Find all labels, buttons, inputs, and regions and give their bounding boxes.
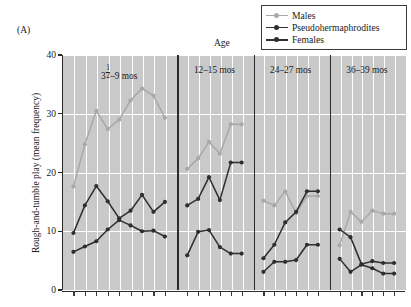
data-point	[240, 251, 244, 255]
series-line	[340, 229, 394, 264]
x-axis-tick-mark	[351, 291, 352, 296]
data-point	[151, 210, 155, 214]
series-layer	[0, 0, 411, 307]
data-point	[218, 198, 222, 202]
data-point	[196, 156, 200, 160]
data-point	[381, 261, 385, 265]
data-point	[163, 234, 167, 238]
x-axis-tick-mark	[318, 291, 319, 296]
y-axis-tick-label: 30	[34, 109, 56, 119]
data-point	[140, 86, 144, 90]
x-axis-tick-mark	[108, 291, 109, 296]
data-point	[94, 239, 98, 243]
series-line	[263, 191, 317, 213]
figure-root: (A) Age Rough-and-tumble play (mean freq…	[0, 0, 411, 307]
x-axis-tick-mark	[361, 291, 362, 296]
data-point	[370, 266, 374, 270]
y-axis-tick-label: 10	[34, 226, 56, 236]
x-axis-tick-mark	[372, 291, 373, 296]
data-point	[151, 93, 155, 97]
data-point	[129, 98, 133, 102]
x-axis-tick-mark	[187, 291, 188, 296]
x-axis-tick-mark	[73, 291, 74, 296]
x-axis-tick-mark	[296, 291, 297, 296]
data-point	[117, 218, 121, 222]
data-point	[151, 229, 155, 233]
data-point	[196, 197, 200, 201]
x-axis-tick-mark	[340, 291, 341, 296]
panel-label-3: 24–27 mos	[270, 65, 311, 75]
y-axis-tick-mark	[58, 231, 62, 232]
data-point	[338, 257, 342, 261]
x-axis-tick-mark	[274, 291, 275, 296]
data-point	[196, 230, 200, 234]
data-point	[106, 127, 110, 131]
x-axis-tick-mark	[119, 291, 120, 296]
data-point	[272, 243, 276, 247]
x-axis-tick-mark	[131, 291, 132, 296]
series-line	[73, 220, 164, 252]
data-point	[185, 167, 189, 171]
data-point	[218, 152, 222, 156]
data-point	[106, 199, 110, 203]
x-axis-tick-mark	[209, 291, 210, 296]
data-point	[117, 118, 121, 122]
x-axis-tick-mark	[307, 291, 308, 296]
data-point	[272, 260, 276, 264]
x-axis-tick-mark	[153, 291, 154, 296]
x-axis-tick-mark	[165, 291, 166, 296]
data-point	[129, 223, 133, 227]
x-axis-tick-mark	[220, 291, 221, 296]
data-point	[283, 220, 287, 224]
data-point	[240, 160, 244, 164]
data-point	[229, 122, 233, 126]
data-point	[338, 243, 342, 247]
data-point	[185, 203, 189, 207]
data-point	[392, 271, 396, 275]
data-point	[305, 243, 309, 247]
x-axis-tick-mark	[285, 291, 286, 296]
x-axis-tick-mark	[231, 291, 232, 296]
data-point	[94, 109, 98, 113]
data-point	[316, 194, 320, 198]
x-axis-tick-mark	[85, 291, 86, 296]
data-point	[94, 184, 98, 188]
x-axis-tick-mark	[394, 291, 395, 296]
data-point	[381, 271, 385, 275]
data-point	[163, 116, 167, 120]
data-point	[218, 245, 222, 249]
data-point	[305, 189, 309, 193]
series-line	[340, 211, 394, 246]
series-line	[187, 230, 241, 255]
data-point	[261, 256, 265, 260]
data-point	[140, 229, 144, 233]
data-point	[316, 243, 320, 247]
y-axis-tick-mark	[58, 172, 62, 173]
data-point	[261, 270, 265, 274]
panel-label-4: 36–39 mos	[346, 65, 387, 75]
data-point	[392, 212, 396, 216]
data-point	[229, 160, 233, 164]
data-point	[381, 212, 385, 216]
data-point	[294, 210, 298, 214]
data-point	[240, 122, 244, 126]
panel-label-1: 312–9 mos	[101, 65, 137, 81]
x-axis-tick-mark	[142, 291, 143, 296]
y-axis-tick-mark	[58, 289, 62, 290]
data-point	[129, 209, 133, 213]
data-point	[294, 258, 298, 262]
data-point	[83, 244, 87, 248]
data-point	[71, 231, 75, 235]
y-axis-tick-label: 20	[34, 168, 56, 178]
data-point	[283, 189, 287, 193]
data-point	[207, 175, 211, 179]
data-point	[370, 209, 374, 213]
data-point	[163, 200, 167, 204]
data-point	[106, 227, 110, 231]
data-point	[272, 203, 276, 207]
y-axis-tick-mark	[58, 113, 62, 114]
data-point	[359, 263, 363, 267]
data-point	[359, 220, 363, 224]
data-point	[261, 199, 265, 203]
x-axis-tick-mark	[263, 291, 264, 296]
